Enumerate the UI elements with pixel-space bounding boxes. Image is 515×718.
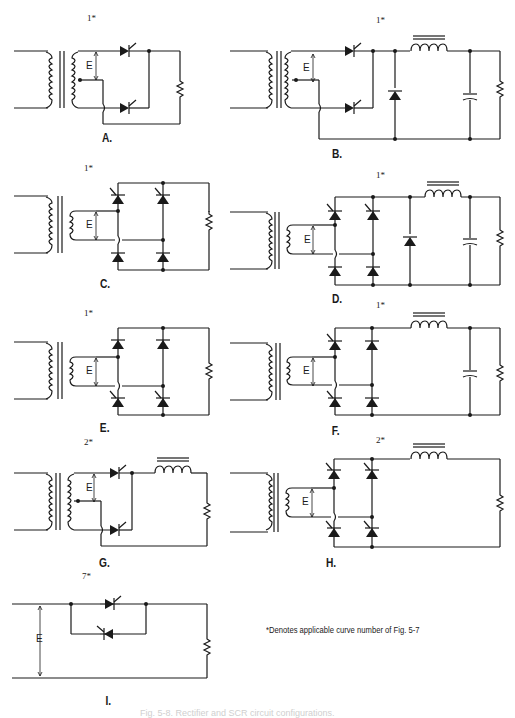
curve-number-b: 1* [376,15,385,25]
voltage-label-b: E [303,62,310,73]
circuit-b [230,36,503,141]
circuit-g [14,458,210,546]
circuit-d [230,182,503,287]
panel-label-i: I. [106,694,112,708]
panel-label-g: G. [99,556,110,570]
voltage-label-d: E [304,234,311,245]
panel-label-e: E. [100,421,110,435]
circuit-f [230,313,503,417]
voltage-label-c: E [86,219,93,230]
voltage-label-h: E [302,496,309,507]
voltage-label-e: E [86,365,93,376]
circuit-h [230,444,503,549]
footnote: *Denotes applicable curve number of Fig.… [266,625,420,635]
curve-number-f: 1* [376,300,385,310]
curve-number-c: 1* [84,163,93,173]
circuit-e [14,326,212,417]
curve-number-a: 1* [87,13,96,23]
figure-caption: Fig. 5-8. Rectifier and SCR circuit conf… [140,708,335,718]
panel-label-b: B. [332,147,342,161]
curve-number-e: 1* [84,308,93,318]
circuit-c [14,181,212,272]
panel-label-h: H. [326,556,336,570]
voltage-label-i: E [36,633,43,644]
panel-label-f: F. [332,424,340,438]
curve-number-h: 2* [376,435,385,445]
voltage-label-f: E [303,365,310,376]
curve-number-g: 2* [84,437,93,447]
panel-label-d: D. [332,292,342,306]
curve-number-d: 1* [376,170,385,180]
panel-label-c: C. [100,277,110,291]
voltage-label-a: E [86,60,93,71]
voltage-label-g: E [86,482,93,493]
circuit-a [14,43,183,124]
panel-label-a: A. [102,131,112,145]
curve-number-i: 7* [82,571,91,581]
